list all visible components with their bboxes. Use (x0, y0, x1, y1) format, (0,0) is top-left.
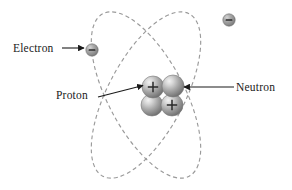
atom-diagram-canvas (0, 0, 292, 190)
electron-upper-right (223, 14, 235, 26)
label-neutron: Neutron (236, 81, 275, 93)
electron-group (86, 14, 235, 56)
neutron-top-right (162, 75, 184, 97)
label-electron: Electron (13, 42, 54, 54)
atom-diagram-figure: Electron Proton Neutron (0, 0, 292, 190)
proton-top-left (142, 76, 164, 98)
nucleus-group (141, 75, 184, 116)
electron-left (86, 44, 98, 56)
label-proton: Proton (56, 89, 88, 101)
arrow-proton (98, 86, 143, 98)
proton-bottom-right (161, 94, 183, 116)
